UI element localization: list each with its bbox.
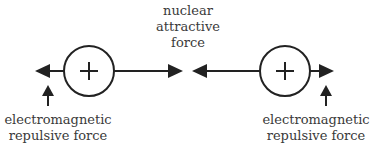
arrowhead-up-icon bbox=[320, 85, 332, 96]
right-electromagnetic-repulsive-force-label: electromagnetic repulsive force bbox=[258, 112, 374, 144]
label-line: repulsive force bbox=[2, 128, 114, 144]
label-line: nuclear bbox=[148, 3, 228, 19]
left-proton bbox=[64, 46, 114, 96]
label-line: attractive bbox=[148, 19, 228, 35]
left-electromagnetic-repulsive-force-label: electromagnetic repulsive force bbox=[2, 112, 114, 144]
right-proton bbox=[260, 46, 310, 96]
label-line: electromagnetic bbox=[2, 112, 114, 128]
arrowhead-right-icon bbox=[168, 64, 183, 78]
label-line: electromagnetic bbox=[258, 112, 374, 128]
arrowhead-left-icon bbox=[192, 64, 207, 78]
nuclear-attractive-force-label: nuclear attractive force bbox=[148, 3, 228, 51]
arrowhead-left-icon bbox=[35, 64, 50, 78]
arrowhead-right-icon bbox=[319, 64, 334, 78]
arrowhead-up-icon bbox=[42, 85, 54, 96]
label-line: repulsive force bbox=[258, 128, 374, 144]
label-line: force bbox=[148, 35, 228, 51]
